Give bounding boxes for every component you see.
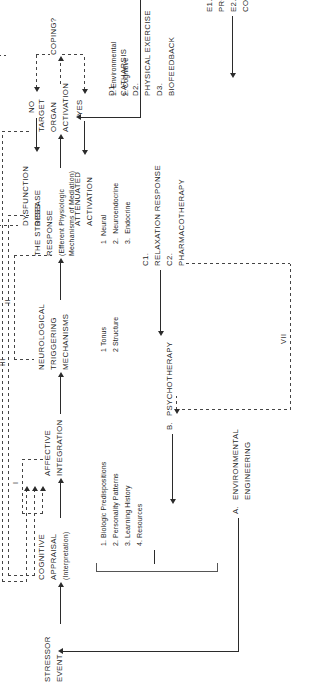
node-stressor-event-line1: STRESSOR <box>44 636 53 682</box>
node-neurological-line3: MECHANISMS <box>62 314 71 370</box>
node-target-organ-line1: TARGET <box>38 99 47 132</box>
arrowhead-stressor-to-appraisal <box>58 582 64 587</box>
intervention-e1-key: E1. <box>206 0 215 12</box>
feedback-iii-top <box>8 216 9 576</box>
arrowhead-yes-to-attenuated <box>82 150 88 155</box>
node-stress-response-line3: (Efferent Physiologic <box>58 189 67 256</box>
arrowhead-intervention-a <box>58 649 63 655</box>
intervention-c2-key: C2. <box>166 253 175 266</box>
arrowhead-coping-yes <box>82 89 88 94</box>
feedback-vii-right <box>186 263 290 264</box>
intervention-d3-label: BIOFEEDBACK <box>168 37 177 96</box>
intervention-c2-label: PHARMACOTHERAPY <box>178 179 187 266</box>
intervention-b-label: PSYCHOTHERAPY <box>166 342 175 416</box>
node-cognitive-appraisal-line1: COGNITIVE <box>38 534 47 580</box>
arrowhead-affective-to-neurological <box>58 372 64 377</box>
flow-arrow-neurological-to-stress-response <box>60 262 61 300</box>
appraisal-modifier-bracket <box>96 563 218 572</box>
node-cognitive-appraisal-line2: APPRAISAL <box>50 534 59 581</box>
stress-response-item-1: 1 Neural <box>100 215 109 244</box>
branch-coping-no-stem <box>36 54 50 55</box>
arrowhead-no-to-dysfunction <box>34 147 40 152</box>
intervention-b-key: B. <box>166 422 175 430</box>
node-neurological-line1: NEUROLOGICAL <box>38 304 47 370</box>
node-affective-integration-line1: AFFECTIVE <box>44 430 53 476</box>
flow-arrow-appraisal-to-affective <box>60 482 61 518</box>
feedback-iii-right <box>8 215 30 216</box>
neurological-item-1: 1 Tonus <box>100 327 109 352</box>
intervention-d1-key: D1. <box>108 83 117 96</box>
intervention-a-line <box>238 518 239 652</box>
feedback-i-right <box>22 459 52 460</box>
node-target-organ-line2: ORGAN <box>50 102 59 132</box>
intervention-c1-key: C1. <box>142 253 151 266</box>
appraisal-bracket-stem <box>154 550 155 564</box>
feedback-ii-top <box>14 255 15 360</box>
arrowhead-intervention-c <box>158 331 164 336</box>
feedback-label-vii: VII <box>280 333 289 344</box>
feedback-vii-return <box>176 396 177 410</box>
feedback-vii-left <box>176 409 290 410</box>
neurological-item-2: 2 Structure <box>112 317 121 352</box>
intervention-a-line2: ENGINEERING <box>244 442 253 500</box>
intervention-c1-label: RELAXATION RESPONSE <box>154 165 163 266</box>
arrowhead-intervention-b <box>170 499 176 504</box>
arrowhead-coping-no <box>34 87 40 92</box>
node-coping-decision: COPING? <box>50 17 59 55</box>
node-attenuated-line1: ATTENUATED <box>74 172 83 226</box>
intervention-e1-label: PROBLEM SOLVING <box>218 0 227 12</box>
intervention-a-stem <box>62 651 238 652</box>
intervention-e2-label: COGNITIVE RESTRUCTURING <box>242 0 251 12</box>
intervention-d2-label: PHYSICAL EXERCISE <box>144 10 153 96</box>
branch-coping-yes-line <box>84 54 85 90</box>
intervention-d-line <box>140 0 141 118</box>
node-stressor-event-line2: EVENT <box>56 654 65 682</box>
feedback-iv-right <box>2 131 32 132</box>
appraisal-modifier-item-3: 3. Learning History <box>124 485 133 546</box>
arrowhead-target-organ-to-coping <box>58 56 64 61</box>
node-dysfunction-label: DYSFUNCTION <box>22 166 31 226</box>
appraisal-modifier-item-2: 2. Personality Patterns <box>112 473 121 546</box>
node-disease-label: DISEASE <box>34 190 43 226</box>
arrowhead-feedback-iii <box>32 486 38 491</box>
arrowhead-intervention-e <box>230 73 236 78</box>
intervention-b-line <box>172 434 173 500</box>
intervention-c-line <box>160 270 161 332</box>
arrowhead-stress-response-to-target-organ <box>58 134 64 139</box>
intervention-d1-label: CATHARSIS <box>120 49 129 96</box>
feedback-label-iv: IV <box>0 392 1 400</box>
feedback-ii-left <box>14 359 34 360</box>
intervention-a-line1: ENVIRONMENTAL <box>232 429 241 500</box>
flow-arrow-target-organ-to-coping <box>60 60 61 84</box>
node-target-organ-line3: ACTIVATION <box>62 83 71 132</box>
intervention-e2-key: E2. <box>230 0 239 12</box>
node-cognitive-appraisal-line3: (Interpretation) <box>62 532 71 580</box>
arrowhead-neurological-to-stress-response <box>58 258 64 263</box>
branch-coping-yes-stem <box>62 54 84 55</box>
intervention-a-key: A. <box>232 506 241 514</box>
feedback-i-left <box>22 513 42 514</box>
feedback-label-i: I <box>12 481 21 484</box>
intervention-e-line <box>232 16 233 74</box>
stress-response-item-3: 3. Endocrine <box>124 201 133 244</box>
feedback-v-stub <box>0 55 6 56</box>
feedback-iv-return <box>26 490 27 582</box>
intervention-d2-key: D2. <box>132 83 141 96</box>
flow-arrow-stressor-to-appraisal <box>60 586 61 624</box>
intervention-d3-key: D3. <box>156 83 165 96</box>
arrowhead-intervention-d <box>76 115 81 121</box>
node-stress-response-line2: RESPONSE <box>46 210 55 256</box>
feedback-i-return <box>42 490 43 514</box>
feedback-vii-bottom <box>290 264 291 410</box>
flow-arrow-stress-response-to-target-organ <box>60 138 61 168</box>
feedback-vi-left <box>0 225 18 226</box>
feedback-iii-left <box>8 575 34 576</box>
intervention-d-stem <box>80 117 140 118</box>
feedback-iii-return <box>34 490 35 576</box>
flow-arrow-no-to-dysfunction <box>36 118 37 148</box>
appraisal-modifier-item-4: 4. Resources <box>136 504 145 546</box>
arrowhead-appraisal-to-affective <box>58 478 64 483</box>
flow-arrow-yes-to-attenuated <box>84 121 85 151</box>
node-neurological-line2: TRIGGERING <box>50 317 59 370</box>
node-attenuated-line2: ACTIVATION <box>86 177 95 226</box>
